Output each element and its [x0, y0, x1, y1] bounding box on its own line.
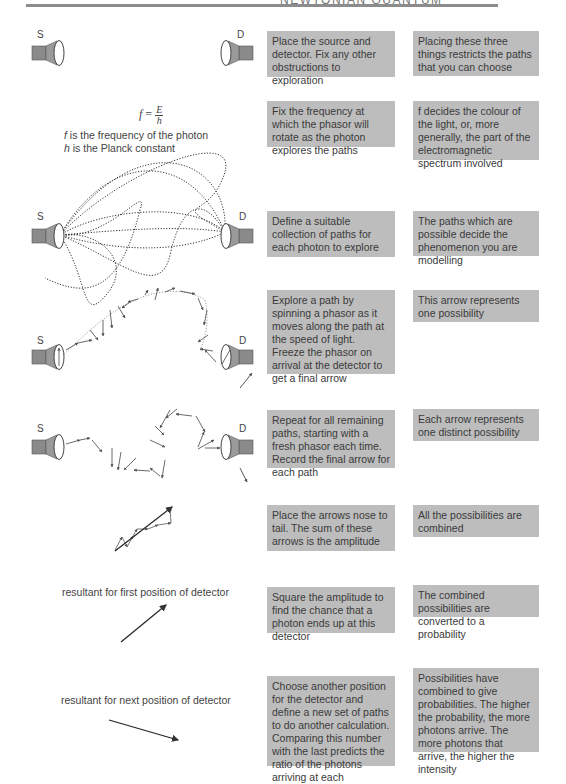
frequency-formula: f = E h	[139, 105, 163, 126]
step-8-action: Choose another position for the detector…	[267, 676, 395, 766]
detector-label-4: D	[239, 335, 246, 346]
next-resultant-caption: resultant for next position of detector	[61, 694, 231, 706]
diagram-column: S D S D	[0, 0, 266, 759]
detector-label-1: D	[237, 29, 244, 40]
step-2-meaning: f decides the colour of the light, or, m…	[413, 101, 539, 160]
detector-device-4	[221, 345, 253, 370]
source-device-1	[32, 41, 64, 66]
formula-note-h: h is the Planck constant	[64, 142, 175, 154]
first-resultant-caption: resultant for first position of detector	[62, 586, 229, 598]
detector-device-5	[221, 435, 253, 460]
detector-device-3	[221, 224, 253, 249]
source-label-1: S	[37, 29, 44, 40]
source-device-4	[32, 345, 64, 370]
source-label-4: S	[37, 335, 44, 346]
step-3-action: Define a suitable collection of paths fo…	[267, 211, 395, 257]
first-resultant-arrow	[121, 605, 166, 642]
step-8-meaning: Possibilities have combined to give prob…	[413, 668, 539, 752]
phasor-path-diagram	[62, 288, 252, 388]
f-note-text: is the frequency of the photon	[67, 129, 208, 141]
formula-equals: =	[145, 107, 152, 121]
step-7-action: Square the amplitude to find the chance …	[267, 587, 395, 633]
step-3-meaning: The paths which are possible decide the …	[413, 211, 539, 256]
source-label-3: S	[37, 211, 44, 222]
step-5-meaning: Each arrow represents one distinct possi…	[413, 409, 539, 441]
next-resultant-arrow	[109, 720, 178, 740]
formula-lhs: f	[139, 107, 142, 121]
detector-label-5: D	[239, 423, 246, 434]
step-5-action: Repeat for all remaining paths, starting…	[267, 410, 395, 468]
source-device-3	[32, 224, 64, 249]
h-note-text: is the Planck constant	[70, 142, 175, 154]
repeated-phasors-diagram	[66, 409, 247, 482]
step-4-action: Explore a path by spinning a phasor as i…	[267, 290, 395, 374]
step-1-meaning: Placing these three things restricts the…	[413, 31, 539, 76]
paths-diagram	[45, 153, 226, 305]
formula-note-f: f is the frequency of the photon	[64, 129, 208, 141]
step-4-meaning: This arrow represents one possibility	[413, 290, 539, 322]
source-label-5: S	[37, 423, 44, 434]
step-6-action: Place the arrows nose to tail. The sum o…	[267, 505, 395, 551]
detector-device-1	[221, 41, 253, 66]
step-1-action: Place the source and detector. Fix any o…	[267, 31, 395, 77]
source-device-5	[32, 435, 64, 460]
formula-denominator: h	[155, 116, 163, 126]
step-6-meaning: All the possibilities are combined	[413, 505, 539, 537]
detector-label-3: D	[239, 211, 246, 222]
step-2-action: Fix the frequency at which the phasor wi…	[267, 101, 395, 147]
arrow-sum-diagram	[115, 507, 172, 551]
formula-fraction: E h	[155, 105, 163, 126]
step-7-meaning: The combined possibilities are converted…	[413, 585, 539, 617]
